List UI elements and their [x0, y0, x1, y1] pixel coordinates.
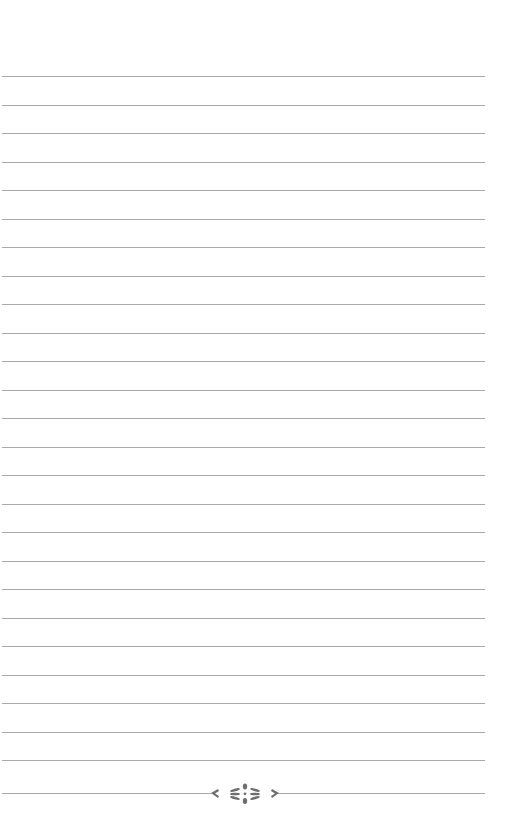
ruled-line [2, 219, 485, 220]
ruled-line [2, 162, 485, 163]
ruled-line [2, 333, 485, 334]
ruled-line [2, 76, 485, 77]
ruled-line [2, 475, 485, 476]
ruled-line [2, 105, 485, 106]
ruled-line [2, 618, 485, 619]
ruled-line [2, 703, 485, 704]
ruled-line [2, 447, 485, 448]
ruled-line [2, 276, 485, 277]
footer-rule-right [278, 793, 485, 794]
ruled-line [2, 589, 485, 590]
ruled-line [2, 133, 485, 134]
ruled-line [2, 532, 485, 533]
ruled-line [2, 304, 485, 305]
ruled-line [2, 504, 485, 505]
ruled-line [2, 418, 485, 419]
ruled-line [2, 190, 485, 191]
ruled-line [2, 390, 485, 391]
ruled-line [2, 646, 485, 647]
footer-rule-left [2, 793, 212, 794]
ruled-line [2, 760, 485, 761]
ruled-line [2, 675, 485, 676]
ruled-line [2, 732, 485, 733]
ruled-line [2, 361, 485, 362]
floral-divider-icon [208, 782, 282, 806]
notebook-page [0, 0, 506, 836]
ruled-line [2, 247, 485, 248]
ruled-line [2, 561, 485, 562]
